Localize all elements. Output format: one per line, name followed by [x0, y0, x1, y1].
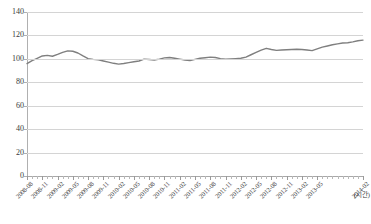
x-axis-tick: [292, 176, 293, 179]
x-axis-tick: [332, 176, 333, 179]
x-axis-tick: [144, 176, 145, 179]
x-axis-tick: [32, 176, 33, 179]
x-axis-tick: [327, 176, 328, 179]
gridline: [27, 59, 363, 60]
x-axis-tick: [261, 176, 262, 179]
x-axis-tick: [312, 176, 313, 179]
x-axis-tick: [236, 176, 237, 179]
x-axis-tick: [139, 176, 140, 179]
x-axis-tick: [63, 176, 64, 179]
y-axis-tick: [24, 59, 27, 60]
x-axis-tick: [119, 176, 120, 180]
x-axis-tick: [185, 176, 186, 179]
x-axis-tick: [58, 176, 59, 180]
x-axis-tick: [78, 176, 79, 179]
x-axis-tick: [37, 176, 38, 179]
y-axis-tick: [24, 82, 27, 83]
y-axis-tick: [24, 12, 27, 13]
x-axis-tick: [205, 176, 206, 179]
gridline: [27, 35, 363, 36]
x-axis-tick: [353, 176, 354, 179]
x-axis-tick: [276, 176, 277, 179]
x-axis-tick: [124, 176, 125, 179]
y-axis-tick: [24, 129, 27, 130]
y-axis-tick-label: 40: [2, 125, 24, 133]
gridline: [27, 82, 363, 83]
y-axis-tick: [24, 106, 27, 107]
x-axis-tick: [98, 176, 99, 179]
x-axis-tick: [129, 176, 130, 179]
y-axis-tick: [24, 35, 27, 36]
x-axis-tick: [220, 176, 221, 179]
x-axis-tick: [52, 176, 53, 179]
y-axis-tick-label: 120: [2, 31, 24, 39]
y-axis-tick-label: 0: [2, 172, 24, 180]
x-axis-tick: [108, 176, 109, 179]
gridline: [27, 153, 363, 154]
x-axis-tick: [343, 176, 344, 179]
y-axis-tick: [24, 153, 27, 154]
x-axis-tick: [338, 176, 339, 179]
x-axis-tick: [170, 176, 171, 179]
y-axis-tick-label: 140: [2, 8, 24, 16]
y-axis-tick-label: 100: [2, 55, 24, 63]
x-axis-tick: [297, 176, 298, 179]
y-axis-tick-label: 60: [2, 102, 24, 110]
x-axis-tick: [322, 176, 323, 179]
x-axis-tick: [226, 176, 227, 180]
x-axis-tick: [266, 176, 267, 179]
x-axis-tick: [282, 176, 283, 179]
plot-area: [27, 12, 363, 176]
series-line-group: [27, 12, 363, 176]
x-axis-tick: [231, 176, 232, 179]
x-axis-tick: [348, 176, 349, 179]
gridline: [27, 12, 363, 13]
x-axis-tick: [246, 176, 247, 179]
x-axis-tick: [68, 176, 69, 179]
series-line: [27, 40, 363, 64]
x-axis-tick: [114, 176, 115, 179]
x-axis-tick: [287, 176, 288, 180]
x-axis-tick: [47, 176, 48, 179]
x-axis-tick: [215, 176, 216, 179]
line-chart: 020406080100120140 (시간) 2008-082008-1120…: [0, 0, 371, 224]
x-axis-tick: [83, 176, 84, 179]
x-axis-tick: [180, 176, 181, 180]
x-axis-tick: [251, 176, 252, 179]
y-axis-tick-label: 80: [2, 78, 24, 86]
x-axis-tick: [358, 176, 359, 179]
x-axis-tick: [93, 176, 94, 179]
x-axis-tick: [200, 176, 201, 179]
y-axis-tick-label: 20: [2, 149, 24, 157]
x-axis-tick: [159, 176, 160, 179]
gridline: [27, 106, 363, 107]
x-axis-tick: [307, 176, 308, 179]
gridline: [27, 129, 363, 130]
x-axis-tick: [154, 176, 155, 179]
x-axis-tick: [190, 176, 191, 179]
x-axis-tick: [175, 176, 176, 179]
